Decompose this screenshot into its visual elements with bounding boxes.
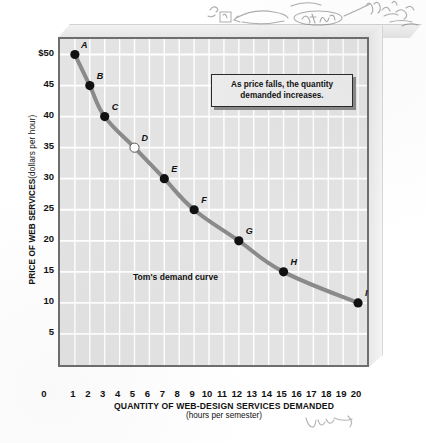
demand-curve-chart: $5045403530252015105 0123456789101112131… — [0, 0, 426, 443]
point-label-b: B — [97, 71, 104, 81]
x-tick-label: 0 — [34, 388, 54, 399]
handwritten-pencil-annotation — [196, 0, 426, 32]
point-label-e: E — [171, 164, 177, 174]
handwritten-pencil-annotation-bottom — [300, 414, 370, 438]
curve-series-label: Tom's demand curve — [133, 272, 218, 282]
chart-slab-right-bevel — [369, 25, 383, 367]
point-label-i: I — [365, 288, 368, 298]
annotation-callout: As price falls, the quantity demanded in… — [211, 74, 353, 107]
y-axis-title: PRICE OF WEB SERVICES(dollars per hour) — [28, 75, 37, 325]
point-label-a: A — [81, 40, 88, 50]
y-tick-label: 5 — [26, 327, 54, 337]
point-label-h: H — [291, 257, 298, 267]
x-axis-tick-labels: 01234567891011121314151617181920 — [28, 388, 420, 401]
point-label-f: F — [201, 195, 207, 205]
point-label-c: C — [112, 102, 119, 112]
y-axis-title-main: PRICE OF WEB SERVICES — [28, 179, 37, 285]
y-axis-title-sub: (dollars per hour) — [28, 115, 37, 179]
x-axis-title: QUANTITY OF WEB-DESIGN SERVICES DEMANDED — [28, 401, 420, 411]
y-tick-label: $50 — [26, 48, 54, 58]
x-tick-label: 20 — [346, 388, 366, 399]
point-label-g: G — [246, 226, 253, 236]
point-label-d: D — [142, 133, 149, 143]
